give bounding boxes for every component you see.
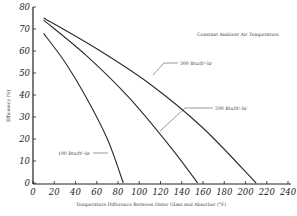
- chart-title: Constant Ambient Air Temperature: [197, 32, 279, 37]
- x-tick-label: 20: [48, 187, 60, 197]
- y-tick-label: 70: [19, 24, 30, 34]
- x-tick-label: 160: [195, 187, 212, 197]
- x-tick-label: 140: [174, 187, 191, 197]
- x-tick-label: 180: [216, 187, 233, 197]
- x-tick-label: 240: [279, 187, 297, 197]
- leader-300: [153, 63, 178, 75]
- y-tick-label: 10: [19, 156, 30, 166]
- x-tick-label: 0: [30, 187, 36, 197]
- x-tick-label: 220: [258, 187, 276, 197]
- y-tick-label: 80: [19, 2, 30, 12]
- x-tick-label: 80: [113, 187, 124, 197]
- x-tick-label: 200: [236, 187, 254, 197]
- leader-200: [160, 108, 213, 131]
- x-axis-label: Temperature Difference Between Outer Gla…: [76, 202, 226, 207]
- x-tick-label: 40: [69, 187, 81, 197]
- label-200-btu: 200 Btu/ft²-hr: [215, 106, 248, 111]
- y-tick-label: 30: [19, 112, 30, 122]
- label-300-btu: 300 Btu/ft²-hr: [180, 61, 213, 66]
- y-tick-label: 40: [18, 90, 30, 100]
- curve-100-btu: [44, 33, 124, 183]
- label-100-btu: 100 Btu/ft²-hr: [58, 151, 91, 156]
- y-tick-label: 50: [19, 68, 30, 78]
- y-tick-label: 20: [18, 134, 30, 144]
- curve-300-btu: [44, 18, 257, 183]
- x-tick-label: 120: [152, 187, 169, 197]
- x-tick-label: 60: [91, 187, 102, 197]
- y-tick-label: 60: [19, 46, 30, 56]
- y-axis-label: Efficiency (%): [6, 89, 12, 122]
- x-tick-label: 100: [131, 187, 148, 197]
- curve-200-btu: [44, 20, 198, 183]
- efficiency-chart: 01020304050607080 0204060801001201401601…: [0, 0, 297, 216]
